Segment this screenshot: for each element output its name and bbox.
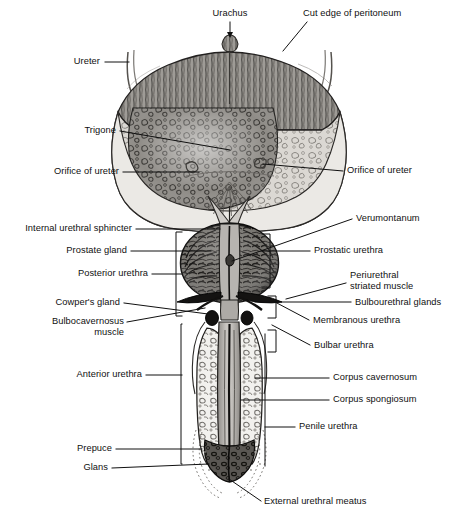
label-membranous-urethra: Membranous urethra [313,315,400,326]
label-posterior-urethra: Posterior urethra [42,268,148,279]
label-orifice-of-ureter-right: Orifice of ureter [347,165,412,176]
label-anterior-urethra: Anterior urethra [42,369,142,380]
label-cowpers-gland: Cowper's gland [30,297,120,308]
membranous-urethra-segment [221,300,239,320]
leader-periurethral [286,283,346,299]
label-penile-urethra: Penile urethra [299,421,358,432]
label-glans: Glans [56,462,108,473]
label-urachus: Urachus [180,8,280,19]
label-periurethral-striated-muscle-line2: striated muscle [350,281,413,292]
label-bulbourethral-glands: Bulbourethral glands [355,297,441,308]
label-bulbocavernosus-muscle-line2: muscle [28,327,124,338]
leader-glans [112,464,209,468]
bracket-anterior-urethra [181,324,182,464]
label-ureter: Ureter [36,56,100,67]
penile-shaft-group [192,322,266,498]
label-prepuce: Prepuce [46,443,112,454]
label-prostate-gland: Prostate gland [40,245,127,256]
leader-bulbar-urethra [272,325,310,345]
label-cut-edge-of-peritoneum: Cut edge of peritoneum [303,8,401,19]
penile-urethra-lumen [229,324,230,454]
label-corpus-spongiosum: Corpus spongiosum [333,394,417,405]
label-external-urethral-meatus: External urethral meatus [264,496,366,507]
leader-cowpers [124,303,208,314]
leader-bulbocavernosus [127,308,205,322]
label-trigone: Trigone [42,125,116,136]
cowpers-gland-left [206,311,219,326]
label-orifice-of-ureter-left: Orifice of ureter [20,166,119,177]
bracket-bulbar-urethra [268,330,276,352]
leader-cut-edge [283,22,307,51]
leader-external-meatus [229,479,261,501]
urethral-wall-left [225,330,226,448]
cowpers-gland-right [241,311,253,325]
label-internal-urethral-sphincter: Internal urethral sphincter [8,223,132,234]
label-prostatic-urethra: Prostatic urethra [314,245,383,256]
anatomy-figure: Urachus Cut edge of peritoneum Ureter Tr… [0,0,459,517]
label-bulbocavernosus-muscle-line1: Bulbocavernosus [28,316,124,327]
label-corpus-cavernosum: Corpus cavernosum [333,372,417,383]
bladder-group [112,35,347,232]
leader-membranous-urethra [275,302,309,320]
urethral-wall-right [234,330,235,448]
label-verumontanum: Verumontanum [356,213,420,224]
label-periurethral-striated-muscle-line1: Periurethral [350,270,399,281]
label-bulbar-urethra: Bulbar urethra [314,340,374,351]
anatomy-illustration [0,0,459,517]
